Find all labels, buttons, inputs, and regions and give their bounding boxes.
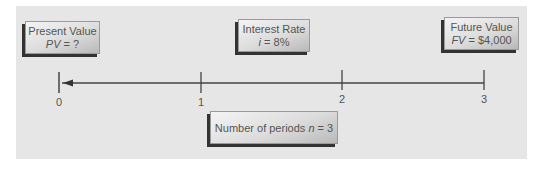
tick-label-2: 2 [332, 93, 352, 105]
fv-expression: = $4,000 [465, 34, 511, 46]
pv-expression: = ? [61, 38, 80, 50]
periods-formula: Number of periods n = 3 [211, 122, 337, 135]
periods-box: Number of periods n = 3 [210, 111, 338, 144]
n-expression: = 3 [315, 122, 334, 134]
interest-rate-title: Interest Rate [239, 23, 309, 36]
present-value-formula: PV = ? [26, 38, 99, 51]
interest-rate-formula: i = 8% [239, 36, 309, 49]
present-value-title: Present Value [26, 25, 99, 38]
pv-variable: PV [46, 38, 61, 50]
fv-variable: FV [451, 34, 465, 46]
i-expression: = 8% [261, 36, 289, 48]
arrow-left-icon [63, 80, 73, 87]
time-value-diagram: 0 1 2 3 Present Value PV = ? Interest Ra… [0, 0, 535, 173]
tick-label-3: 3 [474, 93, 494, 105]
interest-rate-box: Interest Rate i = 8% [238, 19, 310, 52]
periods-title: Number of periods [215, 122, 309, 134]
future-value-box: Future Value FV = $4,000 [444, 17, 519, 50]
tick-label-0: 0 [49, 96, 69, 108]
future-value-formula: FV = $4,000 [445, 34, 518, 47]
future-value-title: Future Value [445, 21, 518, 34]
tick-label-1: 1 [191, 96, 211, 108]
present-value-box: Present Value PV = ? [25, 21, 100, 54]
